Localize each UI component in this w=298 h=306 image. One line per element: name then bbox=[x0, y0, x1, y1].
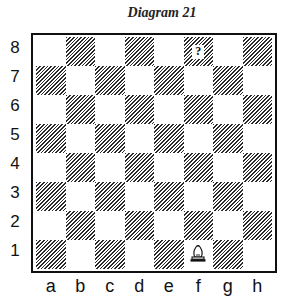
square-f6 bbox=[184, 95, 214, 124]
square-f1 bbox=[184, 240, 214, 269]
square-a6 bbox=[36, 95, 66, 124]
file-label-d: d bbox=[125, 276, 155, 297]
square-h3 bbox=[243, 182, 273, 211]
square-b8 bbox=[66, 37, 96, 66]
square-e6 bbox=[154, 95, 184, 124]
square-c7 bbox=[95, 66, 125, 95]
file-label-e: e bbox=[154, 276, 184, 297]
rank-label-3: 3 bbox=[7, 183, 23, 203]
square-a3 bbox=[36, 182, 66, 211]
square-d5 bbox=[125, 124, 155, 153]
square-c8 bbox=[95, 37, 125, 66]
square-h2 bbox=[243, 211, 273, 240]
square-b2 bbox=[66, 211, 96, 240]
board-grid: ? bbox=[36, 37, 272, 269]
square-e2 bbox=[154, 211, 184, 240]
square-a1 bbox=[36, 240, 66, 269]
square-g2 bbox=[213, 211, 243, 240]
square-c5 bbox=[95, 124, 125, 153]
square-f8: ? bbox=[184, 37, 214, 66]
square-f3 bbox=[184, 182, 214, 211]
square-a4 bbox=[36, 153, 66, 182]
rank-label-1: 1 bbox=[7, 241, 23, 261]
square-b5 bbox=[66, 124, 96, 153]
square-b3 bbox=[66, 182, 96, 211]
square-h7 bbox=[243, 66, 273, 95]
square-e7 bbox=[154, 66, 184, 95]
chess-board: ? bbox=[31, 33, 277, 273]
square-d8 bbox=[125, 37, 155, 66]
square-g7 bbox=[213, 66, 243, 95]
square-f7 bbox=[184, 66, 214, 95]
square-g3 bbox=[213, 182, 243, 211]
square-f4 bbox=[184, 153, 214, 182]
square-e5 bbox=[154, 124, 184, 153]
diagram-title: Diagram 21 bbox=[0, 5, 298, 21]
square-a2 bbox=[36, 211, 66, 240]
square-c1 bbox=[95, 240, 125, 269]
square-a5 bbox=[36, 124, 66, 153]
square-g8 bbox=[213, 37, 243, 66]
square-g5 bbox=[213, 124, 243, 153]
square-a8 bbox=[36, 37, 66, 66]
file-label-h: h bbox=[243, 276, 273, 297]
rank-label-6: 6 bbox=[7, 96, 23, 116]
square-c2 bbox=[95, 211, 125, 240]
square-b7 bbox=[66, 66, 96, 95]
square-b6 bbox=[66, 95, 96, 124]
square-d2 bbox=[125, 211, 155, 240]
square-e3 bbox=[154, 182, 184, 211]
square-h4 bbox=[243, 153, 273, 182]
square-h5 bbox=[243, 124, 273, 153]
rank-label-8: 8 bbox=[7, 38, 23, 58]
square-c4 bbox=[95, 153, 125, 182]
square-e4 bbox=[154, 153, 184, 182]
square-g6 bbox=[213, 95, 243, 124]
square-d6 bbox=[125, 95, 155, 124]
square-f2 bbox=[184, 211, 214, 240]
square-d7 bbox=[125, 66, 155, 95]
rank-label-7: 7 bbox=[7, 67, 23, 87]
file-label-b: b bbox=[66, 276, 96, 297]
rank-label-5: 5 bbox=[7, 125, 23, 145]
square-d3 bbox=[125, 182, 155, 211]
file-label-f: f bbox=[184, 276, 214, 297]
file-label-g: g bbox=[213, 276, 243, 297]
square-d1 bbox=[125, 240, 155, 269]
square-h8 bbox=[243, 37, 273, 66]
square-c6 bbox=[95, 95, 125, 124]
rank-label-4: 4 bbox=[7, 154, 23, 174]
file-label-a: a bbox=[36, 276, 66, 297]
square-d4 bbox=[125, 153, 155, 182]
square-g4 bbox=[213, 153, 243, 182]
square-a7 bbox=[36, 66, 66, 95]
square-c3 bbox=[95, 182, 125, 211]
file-label-c: c bbox=[95, 276, 125, 297]
square-b1 bbox=[66, 240, 96, 269]
square-e8 bbox=[154, 37, 184, 66]
rank-label-2: 2 bbox=[7, 212, 23, 232]
square-e1 bbox=[154, 240, 184, 269]
square-h6 bbox=[243, 95, 273, 124]
white-bishop-icon bbox=[187, 242, 209, 268]
square-f5 bbox=[184, 124, 214, 153]
square-h1 bbox=[243, 240, 273, 269]
square-b4 bbox=[66, 153, 96, 182]
square-g1 bbox=[213, 240, 243, 269]
question-mark-marker: ? bbox=[192, 45, 204, 59]
